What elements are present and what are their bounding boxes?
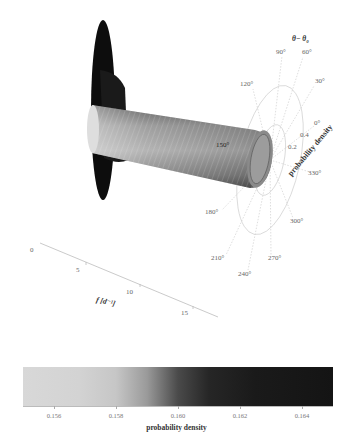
polar-title: θ− θ₀ [292, 35, 309, 43]
angle-240: 240° [238, 271, 251, 278]
radial-tick-0-2: 0.2 [288, 144, 297, 151]
colorbar-ticklabel: 0.160 [171, 412, 186, 419]
angle-150: 150° [216, 142, 229, 149]
f-axis [40, 243, 218, 317]
angle-120: 120° [240, 81, 253, 88]
angle-60: 60° [302, 49, 312, 56]
radial-tick-0-4: 0.4 [300, 132, 309, 139]
plot-3d-surface [0, 0, 353, 340]
colorbar-tick [302, 406, 303, 409]
f-tick-10: 10 [126, 289, 133, 296]
colorbar-tick [116, 406, 117, 409]
colorbar-ticklabel: 0.164 [295, 412, 310, 419]
colorbar-tick [240, 406, 241, 409]
f-tick-5: 5 [76, 267, 80, 274]
colorbar-tick [54, 406, 55, 409]
colorbar-tick [178, 406, 179, 409]
angle-0: 0° [314, 120, 320, 127]
colorbar-title: probability density [0, 423, 353, 432]
f-tick-15: 15 [181, 310, 188, 317]
angle-330: 330° [308, 170, 321, 177]
colorbar [23, 367, 333, 406]
angle-210: 210° [211, 255, 224, 262]
colorbar-ticklabel: 0.158 [109, 412, 124, 419]
colorbar-ticklabel: 0.156 [47, 412, 62, 419]
angle-180: 180° [205, 209, 218, 216]
angle-30: 30° [315, 78, 325, 85]
angle-300: 300° [290, 218, 303, 225]
angle-270: 270° [268, 255, 281, 262]
angle-90: 90° [276, 49, 286, 56]
colorbar-gradient [23, 367, 333, 406]
colorbar-ticklabel: 0.162 [233, 412, 248, 419]
f-tick-0: 0 [30, 247, 34, 254]
cylinder-surface [87, 105, 277, 190]
